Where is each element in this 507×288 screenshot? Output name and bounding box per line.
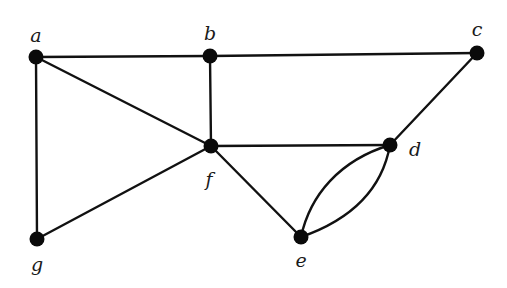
node-g [30, 232, 45, 247]
edge-e-d-left-curve [301, 145, 390, 237]
node-f [204, 139, 219, 154]
edge-f-e [211, 146, 301, 237]
edge-f-g [37, 146, 211, 239]
edge-b-c [210, 53, 477, 56]
node-label-d: d [409, 138, 421, 160]
graph-diagram: a b c d e f g [0, 0, 507, 288]
node-label-b: b [204, 22, 216, 44]
node-label-c: c [472, 18, 483, 40]
edge-a-b [36, 56, 210, 57]
node-a [29, 50, 44, 65]
node-label-e: e [295, 249, 306, 271]
edge-e-d-right-curve [301, 145, 390, 237]
node-d [383, 138, 398, 153]
node-label-a: a [30, 24, 41, 46]
edge-a-g [36, 57, 37, 239]
node-e [294, 230, 309, 245]
node-c [470, 46, 485, 61]
edge-f-d [211, 145, 390, 146]
node-label-g: g [31, 253, 43, 275]
edge-b-f [210, 56, 211, 146]
node-label-f: f [203, 168, 215, 190]
edge-a-f [36, 57, 211, 146]
edge-c-d [390, 53, 477, 145]
node-b [203, 49, 218, 64]
